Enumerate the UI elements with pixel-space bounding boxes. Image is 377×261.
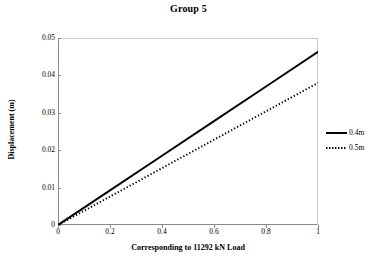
x-tick-mark	[214, 225, 215, 228]
x-tick-label: 0	[38, 227, 78, 236]
x-tick-mark	[266, 225, 267, 228]
y-tick-mark	[58, 188, 61, 189]
legend-label-0: 0.4m	[348, 128, 364, 137]
x-tick-mark	[162, 225, 163, 228]
x-tick-label: 0.6	[194, 227, 234, 236]
y-axis-ticks: 00.010.020.030.040.05	[18, 38, 55, 225]
plot-series-layer	[58, 38, 318, 225]
y-tick-mark	[58, 75, 61, 76]
chart-legend: 0.4m 0.5m	[326, 125, 376, 155]
x-tick-label: 1	[298, 227, 338, 236]
x-tick-mark	[110, 225, 111, 228]
x-axis-ticks: 00.20.40.60.81	[58, 227, 318, 241]
series-line-0.5m	[58, 83, 318, 225]
x-axis-title: Corresponding to 11292 kN Load	[40, 243, 336, 252]
x-tick-mark	[58, 225, 59, 228]
series-line-0.4m	[58, 52, 318, 225]
x-tick-label: 0.8	[246, 227, 286, 236]
legend-dotted-line-icon	[326, 143, 348, 153]
y-axis-title: Displacement (m)	[7, 65, 16, 195]
legend-label-1: 0.5m	[348, 143, 364, 152]
y-tick-label: 0.03	[21, 109, 55, 117]
y-tick-mark	[58, 113, 61, 114]
y-tick-label: 0.02	[21, 146, 55, 154]
legend-item-0: 0.4m	[326, 125, 376, 140]
legend-item-1: 0.5m	[326, 140, 376, 155]
y-tick-label: 0.01	[21, 184, 55, 192]
y-tick-label: 0.05	[21, 34, 55, 42]
legend-solid-line-icon	[326, 128, 348, 138]
x-tick-label: 0.2	[90, 227, 130, 236]
x-tick-mark	[318, 225, 319, 228]
y-tick-label: 0.04	[21, 71, 55, 79]
chart-figure: Group 5 00.010.020.030.040.05 00.20.40.6…	[0, 0, 377, 261]
y-tick-mark	[58, 38, 61, 39]
y-tick-mark	[58, 150, 61, 151]
x-tick-label: 0.4	[142, 227, 182, 236]
chart-title: Group 5	[0, 3, 377, 14]
